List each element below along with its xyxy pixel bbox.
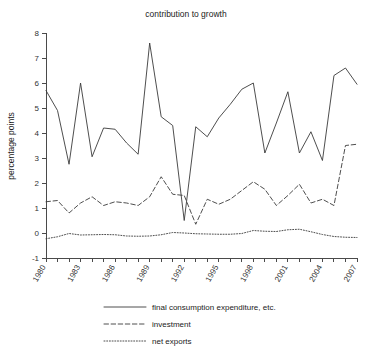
y-tick-label: 7 bbox=[35, 54, 40, 63]
contribution-to-growth-line-chart: contribution to growth percentage points… bbox=[0, 0, 373, 359]
y-tick-label: 2 bbox=[35, 179, 40, 188]
y-axis-label: percentage points bbox=[6, 112, 16, 180]
y-tick-label: 5 bbox=[35, 104, 40, 113]
y-tick-label: 1 bbox=[35, 204, 40, 213]
y-tick-label: 8 bbox=[35, 29, 40, 38]
chart-title: contribution to growth bbox=[145, 9, 227, 19]
y-tick-label: -1 bbox=[32, 254, 40, 263]
legend-label: final consumption expenditure, etc. bbox=[152, 303, 276, 312]
legend-label: investment bbox=[152, 320, 191, 329]
y-tick-label: 3 bbox=[35, 154, 40, 163]
chart-figure: contribution to growth percentage points… bbox=[0, 0, 373, 359]
y-tick-label: 6 bbox=[35, 79, 40, 88]
legend-label: net exports bbox=[152, 337, 192, 346]
y-tick-label: 0 bbox=[35, 229, 40, 238]
y-tick-label: 4 bbox=[35, 129, 40, 138]
